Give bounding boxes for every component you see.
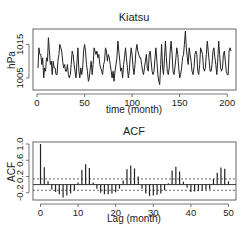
- kiatsu-title: Kiatsu: [119, 11, 150, 23]
- y-tick-label: 1005: [14, 67, 25, 88]
- acf-title: ACF: [123, 125, 145, 137]
- x-tick-label: 150: [172, 97, 188, 108]
- kiatsu-x-label: time (month): [106, 104, 162, 115]
- acf-panel: ACF 01020304050 -0.20.20.61.0 Lag (month…: [6, 125, 236, 224]
- acf-x-label: Lag (month): [107, 213, 161, 224]
- kiatsu-panel: Kiatsu 050100150200 10051015 time (month…: [6, 11, 236, 115]
- x-tick-label: 50: [79, 97, 90, 108]
- x-tick-label: 10: [73, 207, 84, 218]
- y-tick-label: 1.0: [14, 137, 25, 150]
- y-tick-label: -0.2: [14, 185, 25, 201]
- x-tick-label: 0: [34, 97, 39, 108]
- x-tick-label: 40: [186, 207, 197, 218]
- kiatsu-line: [38, 31, 231, 85]
- x-tick-label: 200: [219, 97, 235, 108]
- figure: Kiatsu 050100150200 10051015 time (month…: [0, 0, 248, 236]
- kiatsu-y-label: hPa: [6, 51, 17, 69]
- x-tick-label: 50: [223, 207, 234, 218]
- acf-y-label: ACF: [6, 162, 17, 182]
- acf-bars: [41, 144, 229, 198]
- x-tick-label: 0: [38, 207, 43, 218]
